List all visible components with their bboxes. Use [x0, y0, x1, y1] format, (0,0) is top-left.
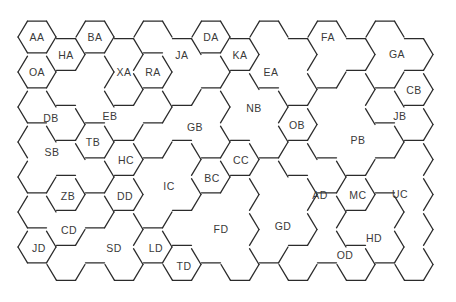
boundary-edge: [337, 21, 347, 37]
boundary-edge: [76, 125, 86, 141]
region-label-fd: FD: [214, 223, 229, 235]
region-label-hd: HD: [366, 232, 382, 244]
boundary-edge: [18, 107, 28, 123]
boundary-edge: [105, 37, 115, 53]
boundary-edge: [221, 265, 231, 281]
region-label-ba: BA: [87, 31, 102, 43]
boundary-edge: [47, 265, 57, 281]
boundary-edge: [47, 196, 57, 212]
boundary-edge: [366, 179, 376, 195]
boundary-edge: [134, 21, 144, 37]
boundary-edge: [308, 144, 318, 160]
boundary-edge: [163, 231, 173, 247]
boundary-edge: [192, 249, 202, 265]
boundary-edge: [308, 109, 318, 125]
boundary-edge: [76, 179, 86, 195]
region-label-ja: JA: [175, 49, 188, 61]
boundary-edge: [134, 195, 144, 211]
boundary-edge: [308, 230, 318, 246]
boundary-edge: [221, 107, 231, 123]
boundary-edge: [134, 74, 144, 90]
boundary-edge: [76, 55, 86, 71]
boundary-edge: [366, 109, 376, 125]
boundary-edge: [134, 160, 144, 176]
region-label-pb: PB: [350, 134, 365, 146]
region-label-oa: OA: [29, 66, 45, 78]
boundary-edge: [250, 160, 260, 176]
region-label-nb: NB: [246, 102, 262, 114]
region-label-gd: GD: [275, 220, 292, 232]
boundary-edge: [192, 160, 202, 176]
region-label-tb: TB: [86, 136, 100, 148]
boundary-edge: [192, 195, 202, 211]
boundary-edge: [308, 21, 318, 37]
boundary-edge: [76, 39, 86, 55]
boundary-edge: [47, 177, 57, 193]
boundary-edge: [424, 214, 434, 230]
boundary-edge: [250, 265, 260, 281]
region-label-ha: HA: [58, 49, 74, 61]
boundary-edge: [395, 126, 405, 142]
region-label-ka: KA: [232, 49, 247, 61]
boundary-edge: [18, 126, 28, 142]
boundary-edge: [279, 21, 289, 37]
boundary-edge: [366, 195, 376, 211]
boundary-edge: [279, 247, 289, 263]
boundary-edge: [250, 39, 260, 55]
region-label-ad: AD: [312, 189, 328, 201]
boundary-edge: [424, 195, 434, 211]
region-label-od: OD: [337, 249, 354, 261]
region-label-td: TD: [177, 260, 192, 272]
boundary-edge: [366, 39, 376, 55]
boundary-edge: [18, 21, 28, 37]
boundary-edge: [105, 142, 115, 158]
boundary-edge: [134, 179, 144, 195]
boundary-edge: [279, 265, 289, 281]
boundary-edge: [18, 196, 28, 212]
boundary-edge: [163, 91, 173, 107]
boundary-edge: [424, 160, 434, 176]
region-label-jd: JD: [32, 242, 46, 254]
boundary-edge: [395, 142, 405, 158]
boundary-edge: [18, 56, 28, 72]
boundary-edge: [47, 231, 57, 247]
boundary-edge: [250, 214, 260, 230]
boundary-edge: [163, 21, 173, 37]
boundary-edge: [163, 56, 173, 72]
boundary-edge: [134, 214, 144, 230]
boundary-edge: [192, 21, 202, 37]
boundary-edge: [76, 144, 86, 160]
boundary-edge: [47, 247, 57, 263]
boundary-edge: [337, 231, 347, 247]
boundary-edge: [395, 231, 405, 247]
boundary-edge: [163, 72, 173, 88]
boundary-edge: [76, 195, 86, 211]
boundary-edge: [105, 212, 115, 228]
region-label-aa: AA: [29, 31, 44, 43]
boundary-edge: [18, 142, 28, 158]
boundary-edge: [134, 265, 144, 281]
region-label-cb: CB: [406, 84, 422, 96]
boundary-edge: [424, 230, 434, 246]
region-label-cd: CD: [61, 224, 77, 236]
boundary-edge: [424, 179, 434, 195]
boundary-edge: [366, 249, 376, 265]
boundary-edge: [47, 21, 57, 37]
region-label-fa: FA: [321, 31, 335, 43]
boundary-edge: [250, 74, 260, 90]
region-label-ld: LD: [149, 242, 163, 254]
boundary-edge: [337, 177, 347, 193]
boundary-edge: [163, 142, 173, 158]
boundary-edge: [366, 55, 376, 71]
boundary-edge: [18, 247, 28, 263]
boundary-edge: [337, 161, 347, 177]
boundary-edge: [163, 212, 173, 228]
boundary-edge: [163, 107, 173, 123]
boundary-edge: [76, 21, 86, 37]
boundary-edge: [18, 177, 28, 193]
boundary-edge: [105, 161, 115, 177]
boundary-edge: [366, 74, 376, 90]
region-label-ob: OB: [289, 119, 305, 131]
boundary-edge: [424, 39, 434, 55]
boundary-edge: [424, 265, 434, 281]
